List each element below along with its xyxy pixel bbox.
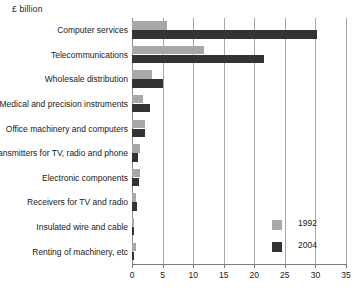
legend-label: 1992 (298, 218, 317, 228)
category-row: Computer services (0, 18, 354, 43)
tick-mark-0 (132, 264, 133, 268)
chart-legend: 19922004 (272, 216, 342, 260)
x-tick-label: 25 (280, 270, 289, 280)
category-row: Electronic components (0, 166, 354, 191)
category-label: Computer services (57, 25, 128, 35)
x-tick-label: 0 (130, 270, 135, 280)
legend-item: 1992 (272, 216, 342, 238)
legend-label: 2004 (298, 240, 317, 250)
tick-mark-10 (193, 264, 194, 268)
bar-1992 (132, 46, 204, 54)
category-row: Transmitters for TV, radio and phone (0, 141, 354, 166)
bar-group (132, 166, 354, 191)
tick-mark-15 (224, 264, 225, 268)
bar-chart: £ billion Computer servicesTelecommunica… (0, 0, 354, 294)
bar-2004 (132, 55, 264, 63)
bar-2004 (132, 252, 134, 260)
bar-2004 (132, 227, 134, 235)
bar-2004 (132, 202, 137, 210)
category-row: Office machinery and computers (0, 116, 354, 141)
x-tick-label: 20 (250, 270, 259, 280)
bar-1992 (132, 193, 136, 201)
tick-mark-25 (285, 264, 286, 268)
bar-2004 (132, 104, 150, 112)
bar-1992 (132, 169, 140, 177)
category-label: Transmitters for TV, radio and phone (0, 148, 128, 158)
bar-2004 (132, 129, 145, 137)
bar-group (132, 116, 354, 141)
category-label: Medical and precision instruments (0, 99, 128, 109)
tick-mark-35 (346, 264, 347, 268)
category-label: Office machinery and computers (6, 124, 128, 134)
bar-1992 (132, 70, 152, 78)
category-row: Wholesale distribution (0, 67, 354, 92)
tick-mark-20 (254, 264, 255, 268)
x-tick-label: 15 (219, 270, 228, 280)
bar-1992 (132, 144, 140, 152)
bar-group (132, 190, 354, 215)
bar-group (132, 18, 354, 43)
bar-1992 (132, 120, 145, 128)
x-tick-label: 30 (311, 270, 320, 280)
category-label: Renting of machinery, etc (32, 247, 128, 257)
x-axis-ticks: 05101520253035 (132, 264, 347, 290)
bar-2004 (132, 153, 138, 161)
tick-mark-5 (163, 264, 164, 268)
legend-item: 2004 (272, 238, 342, 260)
x-tick-label: 10 (188, 270, 197, 280)
bar-2004 (132, 30, 317, 38)
category-label: Electronic components (42, 173, 128, 183)
legend-swatch (272, 242, 282, 252)
bar-group (132, 141, 354, 166)
bar-2004 (132, 178, 139, 186)
x-tick-label: 5 (160, 270, 165, 280)
bar-1992 (132, 21, 167, 29)
category-row: Receivers for TV and radio (0, 190, 354, 215)
category-row: Medical and precision instruments (0, 92, 354, 117)
category-label: Insulated wire and cable (36, 222, 128, 232)
unit-caption: £ billion (12, 4, 43, 14)
category-row: Telecommunications (0, 43, 354, 68)
tick-mark-30 (315, 264, 316, 268)
bar-group (132, 67, 354, 92)
category-label: Receivers for TV and radio (27, 197, 128, 207)
legend-swatch (272, 220, 282, 230)
bar-group (132, 43, 354, 68)
bar-1992 (132, 243, 136, 251)
bar-1992 (132, 218, 134, 226)
category-label: Wholesale distribution (45, 74, 128, 84)
category-label: Telecommunications (51, 50, 128, 60)
x-tick-label: 35 (341, 270, 350, 280)
bar-1992 (132, 95, 143, 103)
bar-group (132, 92, 354, 117)
bar-2004 (132, 79, 163, 87)
